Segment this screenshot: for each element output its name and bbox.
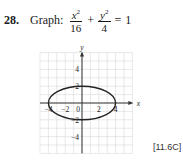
ellipse-graph: xy−4−202442−2−4	[0, 0, 183, 162]
x-tick-label: −4	[44, 105, 52, 114]
x-tick-label: 4	[114, 105, 118, 114]
y-tick-label: 4	[75, 65, 79, 74]
y-tick-label: −2	[71, 116, 79, 125]
section-reference: [11.6C]	[153, 142, 181, 152]
x-tick-label: 2	[97, 105, 101, 114]
tick-labels: xy−4−202442−2−4	[44, 43, 140, 142]
axes	[40, 52, 133, 154]
x-axis-label: x	[136, 99, 141, 108]
x-tick-label: −2	[61, 105, 69, 114]
y-tick-label: −4	[71, 133, 79, 142]
y-axis-label: y	[79, 43, 84, 52]
y-tick-label: 2	[75, 82, 79, 91]
x-tick-label: 0	[76, 105, 80, 114]
